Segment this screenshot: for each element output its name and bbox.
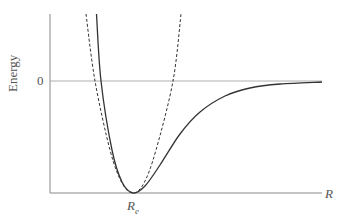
morse-curve bbox=[97, 14, 323, 193]
x-axis-label: R bbox=[325, 187, 333, 200]
zero-tick-label: 0 bbox=[37, 74, 44, 87]
re-main: R bbox=[127, 198, 135, 213]
harmonic-curve bbox=[86, 14, 181, 193]
re-subscript: e bbox=[135, 206, 139, 216]
y-axis-label: Energy bbox=[6, 55, 19, 92]
equilibrium-distance-label: Re bbox=[127, 199, 139, 216]
potential-energy-chart bbox=[0, 0, 348, 217]
